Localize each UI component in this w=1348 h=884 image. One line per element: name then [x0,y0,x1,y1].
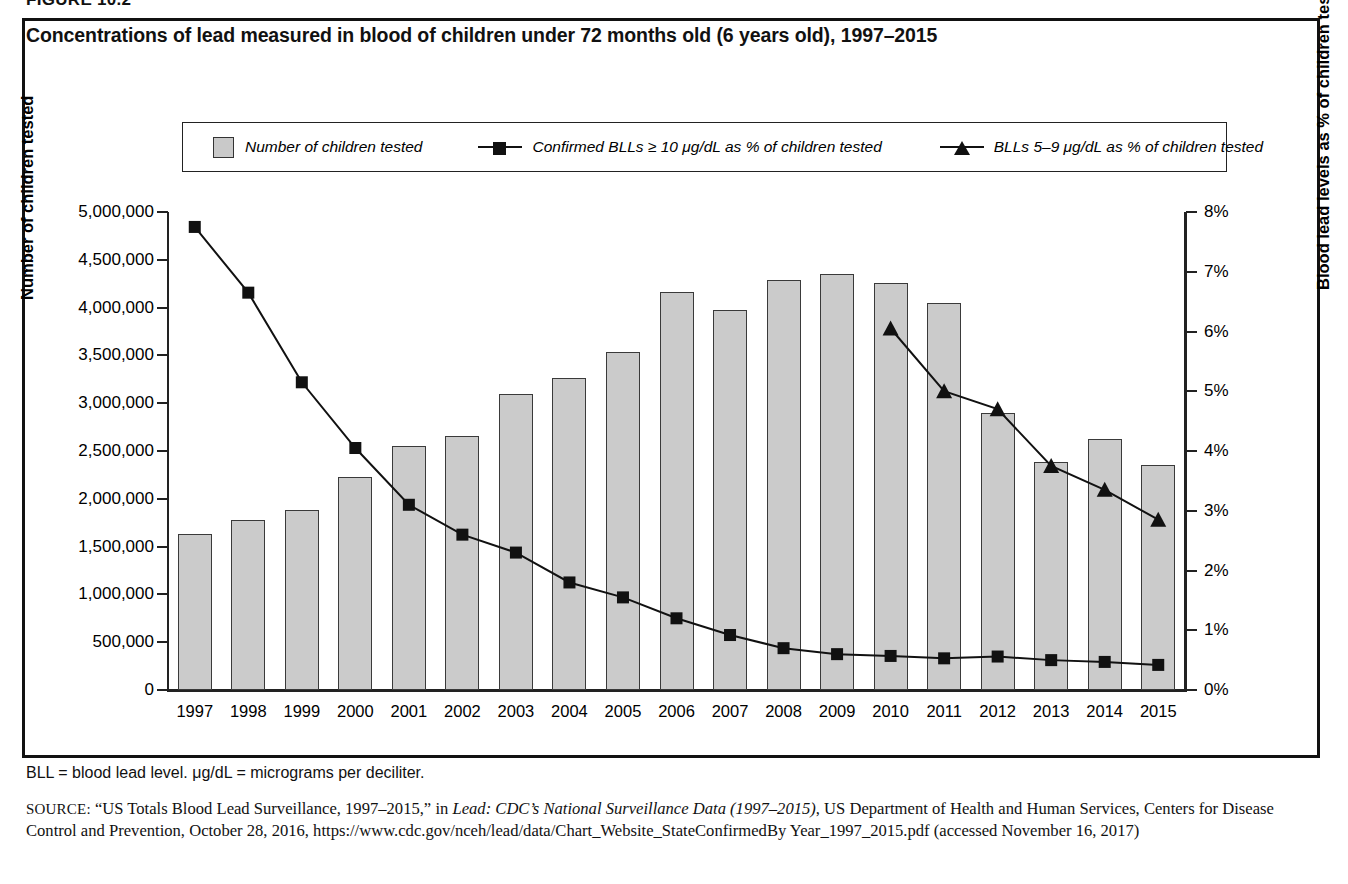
y-tick-label-right: 2% [1204,561,1274,581]
x-axis-label: 2008 [757,702,811,721]
data-point-square [724,629,736,641]
x-axis-label: 2011 [917,702,971,721]
y-tick-label-left: 1,500,000 [34,537,154,557]
x-axis-label: 1999 [275,702,329,721]
y-tick-right [1186,570,1197,572]
data-point-triangle [883,321,899,336]
legend-item-bars: Number of children tested [213,137,422,158]
y-tick-right [1186,331,1197,333]
y-tick-label-left: 3,000,000 [34,393,154,413]
y-tick-right [1186,271,1197,273]
x-axis-label: 2004 [542,702,596,721]
x-axis-label: 2013 [1024,702,1078,721]
x-axis-label: 2001 [382,702,436,721]
x-axis-label: 2003 [489,702,543,721]
y-tick-label-right: 7% [1204,262,1274,282]
data-point-square [189,221,201,233]
data-point-square [1152,659,1164,671]
y-tick-label-left: 500,000 [34,632,154,652]
y-tick-label-right: 1% [1204,620,1274,640]
y-tick-left [157,402,168,404]
data-point-square [403,499,415,511]
y-tick-left [157,259,168,261]
data-point-square [992,651,1004,663]
data-point-square [456,529,468,541]
x-axis-label: 2007 [703,702,757,721]
line-series [168,212,1185,691]
y-tick-label-right: 8% [1204,202,1274,222]
legend-triangle-marker-icon [940,140,984,154]
y-tick-label-left: 3,500,000 [34,345,154,365]
data-point-square [885,650,897,662]
data-point-triangle [1150,512,1166,527]
y-tick-left [157,211,168,213]
data-point-square [1045,654,1057,666]
data-point-square [510,547,522,559]
data-point-square [617,591,629,603]
y-tick-left [157,593,168,595]
x-axis-label: 2002 [435,702,489,721]
y-tick-label-right: 6% [1204,322,1274,342]
legend-item-bll-5-9: BLLs 5–9 μg/dL as % of children tested [940,138,1263,156]
legend-square-marker-icon [478,140,522,154]
y-tick-label-left: 5,000,000 [34,202,154,222]
y-tick-left [157,546,168,548]
data-point-square [296,376,308,388]
y-tick-label-right: 5% [1204,381,1274,401]
y-tick-label-left: 2,000,000 [34,489,154,509]
data-point-square [242,287,254,299]
data-point-square [349,442,361,454]
y-axis-right-title: Blood lead levels as % of children teste… [1314,0,1333,290]
x-axis-label: 2014 [1078,702,1132,721]
y-tick-left [157,641,168,643]
y-tick-left [157,450,168,452]
line-path [891,329,1159,520]
source-prefix: SOURCE: [26,801,91,817]
y-tick-label-left: 0 [34,680,154,700]
source-italic-title: Lead: CDC’s National Surveillance Data (… [452,799,815,818]
y-tick-label-left: 4,500,000 [34,250,154,270]
data-point-square [563,576,575,588]
abbreviations-note: BLL = blood lead level. μg/dL = microgra… [26,764,424,782]
data-point-square [778,642,790,654]
y-tick-left [157,498,168,500]
y-tick-label-left: 4,000,000 [34,298,154,318]
data-point-square [938,652,950,664]
line-path [195,227,1158,665]
y-tick-label-right: 0% [1204,680,1274,700]
x-axis-label: 2015 [1131,702,1185,721]
x-axis-label: 1998 [221,702,275,721]
y-tick-left [157,689,168,691]
y-tick-right [1186,629,1197,631]
y-tick-label-left: 1,000,000 [34,584,154,604]
legend-bar-swatch-icon [213,137,234,158]
y-tick-right [1186,390,1197,392]
x-axis-label: 2009 [810,702,864,721]
x-axis-label: 1997 [168,702,222,721]
chart-title: Concentrations of lead measured in blood… [26,24,1226,47]
source-note: SOURCE: “US Totals Blood Lead Surveillan… [26,798,1316,842]
y-tick-left [157,354,168,356]
y-tick-label-left: 2,500,000 [34,441,154,461]
source-text-1: “US Totals Blood Lead Surveillance, 1997… [91,799,453,818]
y-tick-left [157,307,168,309]
data-point-square [1099,656,1111,668]
data-point-triangle [990,401,1006,416]
y-tick-right [1186,510,1197,512]
x-axis-label: 2006 [650,702,704,721]
y-tick-right [1186,689,1197,691]
y-tick-right [1186,211,1197,213]
chart-legend: Number of children tested Confirmed BLLs… [182,122,1227,172]
x-axis-label: 2005 [596,702,650,721]
figure-number: FIGURE 10.2 [26,0,131,10]
x-axis-label: 2000 [328,702,382,721]
legend-square-label: Confirmed BLLs ≥ 10 μg/dL as % of childr… [532,138,881,156]
y-tick-right [1186,450,1197,452]
x-axis-label: 2010 [864,702,918,721]
data-point-square [831,648,843,660]
data-point-triangle [1097,482,1113,497]
legend-bar-label: Number of children tested [245,138,422,156]
y-tick-label-right: 3% [1204,501,1274,521]
data-point-square [671,612,683,624]
legend-triangle-label: BLLs 5–9 μg/dL as % of children tested [994,138,1263,156]
